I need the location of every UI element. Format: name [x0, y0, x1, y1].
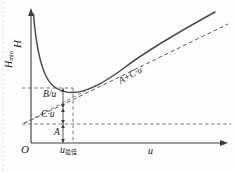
c-times-u-term-label: C·u — [41, 110, 54, 120]
uopt-subscript: 最佳 — [65, 148, 77, 155]
b-over-u-term-label: B/u — [43, 90, 56, 100]
origin-label: O — [21, 144, 29, 155]
y-tick-label-hmin: Hmin — [4, 51, 14, 68]
c-term-arrow-up — [61, 108, 65, 113]
hmin-subscript: min — [7, 51, 14, 61]
x-tick-label-u-optimal: u最佳 — [60, 145, 77, 155]
y-axis-label: H — [12, 40, 23, 48]
plate-height-curve-figure: H Hmin O u最佳 u B/u C·u A A+C·u — [0, 0, 234, 172]
x-axis-arrowhead — [220, 140, 228, 146]
hmin-base: H — [3, 61, 14, 68]
plot-canvas — [0, 0, 234, 172]
a-term-label: A — [54, 128, 60, 138]
x-axis-label: u — [148, 146, 153, 156]
